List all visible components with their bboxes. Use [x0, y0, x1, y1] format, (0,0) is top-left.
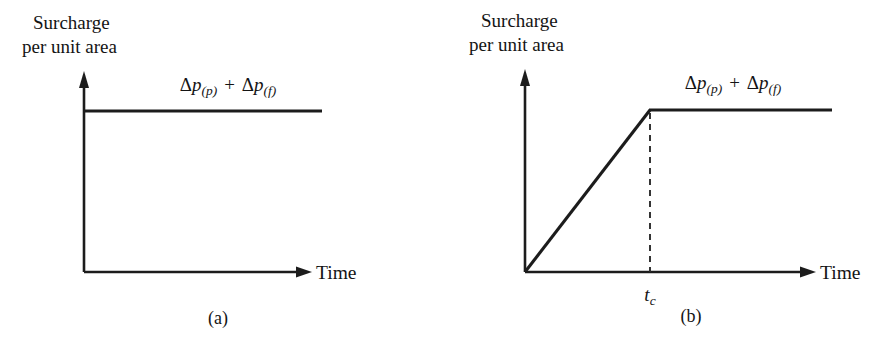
formula-var-1: p [695, 72, 707, 93]
formula-sub-1: (p) [201, 83, 217, 98]
y-axis-arrow-icon [79, 71, 89, 88]
formula-sub-2: (f) [264, 83, 277, 98]
tc-subscript: c [650, 293, 656, 308]
x-axis-label: Time [316, 262, 356, 283]
surcharge-ramp-curve [525, 110, 650, 272]
formula-delta-1: Δ [685, 72, 697, 93]
formula-var-2: p [757, 72, 769, 93]
tc-label: tc [644, 284, 655, 308]
y-axis-label-line1: Surcharge [481, 10, 558, 31]
y-axis-label-line2: per unit area [469, 34, 565, 55]
formula-sub-1: (p) [706, 81, 722, 96]
formula-operator: + [729, 72, 740, 93]
curve-label-formula: Δp(p)+Δp(f) [685, 72, 782, 96]
formula-operator: + [224, 74, 235, 95]
panel-caption: (b) [681, 306, 702, 327]
y-axis-label-line1: Surcharge [33, 12, 110, 33]
y-axis-label-line2: per unit area [22, 36, 118, 57]
formula-delta-1: Δ [180, 74, 192, 95]
x-axis-arrow-icon [296, 267, 312, 278]
formula-delta-2: Δ [747, 72, 759, 93]
formula-var-1: p [190, 74, 202, 95]
formula-delta-2: Δ [242, 74, 254, 95]
panel-b: Surcharge per unit area Time Δp(p)+Δp(f)… [444, 0, 888, 349]
x-axis-label: Time [820, 262, 860, 283]
y-axis-arrow-icon [520, 69, 530, 86]
panel-a: Surcharge per unit area Time Δp(p)+Δp(f)… [0, 0, 444, 349]
figure-container: Surcharge per unit area Time Δp(p)+Δp(f)… [0, 0, 888, 349]
x-axis-arrow-icon [800, 267, 816, 278]
panel-caption: (a) [208, 308, 228, 329]
curve-label-formula: Δp(p)+Δp(f) [180, 74, 277, 98]
formula-var-2: p [252, 74, 264, 95]
formula-sub-2: (f) [769, 81, 782, 96]
